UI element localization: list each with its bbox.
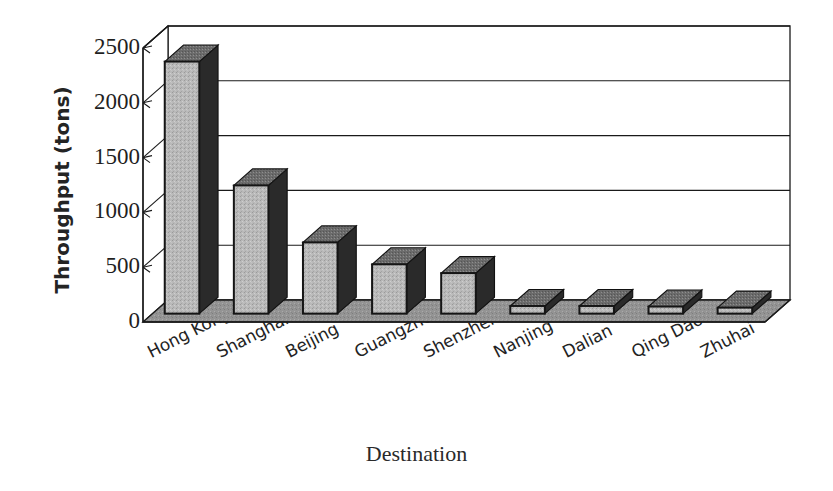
plot-area <box>0 0 833 491</box>
chart-figure: Throughput (tons) Destination 0500100015… <box>0 0 833 491</box>
